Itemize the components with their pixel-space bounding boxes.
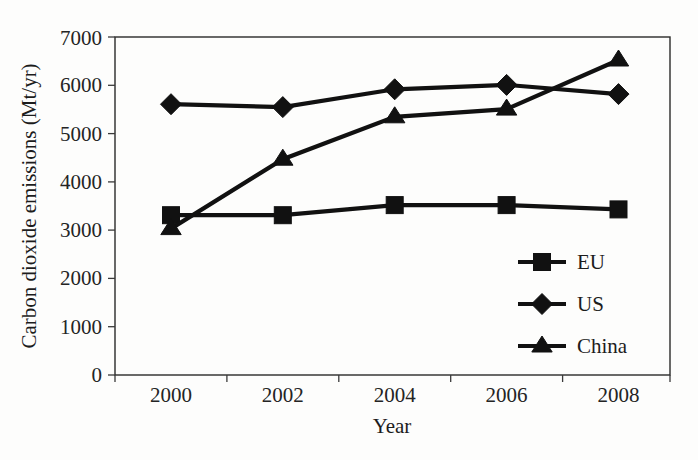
series-china-marker-2008	[608, 50, 628, 66]
x-axis-title: Year	[373, 414, 412, 438]
series-eu-marker-2008	[610, 201, 627, 218]
legend-label-us: US	[577, 292, 604, 316]
y-tick-label-0: 0	[92, 363, 103, 387]
legend-marker-diamond-icon	[532, 294, 553, 315]
series-us-marker-2002	[272, 97, 293, 118]
y-tick-label-5000: 5000	[60, 122, 102, 146]
series-eu	[163, 197, 628, 224]
x-tick-label-2000: 2000	[150, 383, 192, 407]
legend-label-eu: EU	[577, 250, 605, 274]
y-tick-label-2000: 2000	[60, 266, 102, 290]
y-axis-title: Carbon dioxide emissions (Mt/yr)	[17, 63, 41, 348]
y-tick-label-1000: 1000	[60, 315, 102, 339]
legend-marker-square-icon	[534, 254, 551, 271]
legend-item-us[interactable]: US	[518, 292, 604, 316]
series-us-marker-2008	[608, 84, 629, 105]
x-tick-label-2006: 2006	[486, 383, 528, 407]
legend-label-china: China	[577, 334, 628, 358]
y-axis-ticks	[108, 37, 115, 375]
series-eu-marker-2006	[498, 197, 515, 214]
series-us-marker-2000	[161, 94, 182, 115]
y-tick-label-4000: 4000	[60, 170, 102, 194]
co2-emissions-line-chart: 0 1000 2000 3000 4000 5000 6000 7000 200…	[0, 0, 698, 460]
x-tick-label-2002: 2002	[262, 383, 304, 407]
x-axis-ticks	[115, 375, 670, 382]
y-tick-label-7000: 7000	[60, 26, 102, 50]
series-us-marker-2006	[496, 74, 517, 95]
chart-legend: EU US China	[518, 250, 628, 358]
x-tick-label-2008: 2008	[598, 383, 640, 407]
legend-item-china[interactable]: China	[518, 334, 628, 358]
series-eu-marker-2004	[386, 197, 403, 214]
y-tick-label-6000: 6000	[60, 73, 102, 97]
legend-item-eu[interactable]: EU	[518, 250, 605, 274]
series-us-marker-2004	[384, 79, 405, 100]
y-tick-label-3000: 3000	[60, 218, 102, 242]
x-tick-label-2004: 2004	[374, 383, 417, 407]
series-eu-marker-2002	[274, 207, 291, 224]
chart-page: 0 1000 2000 3000 4000 5000 6000 7000 200…	[0, 0, 698, 460]
